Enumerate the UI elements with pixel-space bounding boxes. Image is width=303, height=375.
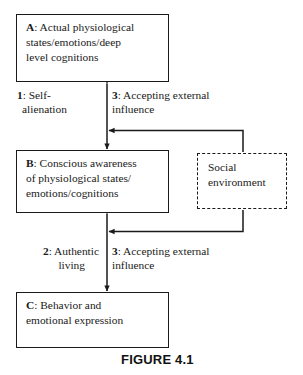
box-social-environment: Social environment	[197, 153, 287, 209]
label-3-lower-line1: : Accepting external	[118, 245, 210, 257]
figure-4-1: A: Actual physiological states/emotions/…	[0, 0, 303, 375]
box-b-line3: emotions/cognitions	[26, 187, 118, 199]
label-3-lower-line2: influence	[112, 259, 154, 271]
box-c-lead: C	[26, 299, 34, 311]
box-c-behavior: C: Behavior and emotional expression	[16, 292, 169, 348]
box-a-line1: : Actual physiological	[34, 21, 134, 33]
box-a-line2: states/emotions/deep	[26, 36, 121, 48]
label-3-upper-line1: : Accepting external	[118, 89, 210, 101]
label-2-line1: : Authentic	[49, 245, 99, 257]
label-1-line2: alienation	[17, 103, 67, 115]
box-a-actual-states: A: Actual physiological states/emotions/…	[16, 14, 169, 82]
label-3-upper-accepting-external-influence: 3: Accepting external influence	[112, 88, 209, 116]
box-social-line2: environment	[208, 176, 266, 188]
box-c-line2: emotional expression	[26, 314, 123, 326]
label-1-self-alienation: 1: Self- alienation	[17, 88, 67, 116]
box-a-line3: level cognitions	[26, 51, 98, 63]
box-b-conscious-awareness: B: Conscious awareness of physiological …	[16, 150, 169, 213]
label-3-lower-accepting-external-influence: 3: Accepting external influence	[112, 244, 209, 272]
arrow-social-to-upper	[109, 131, 243, 153]
label-3-upper-line2: influence	[112, 103, 154, 115]
box-social-line1: Social	[208, 161, 236, 173]
box-a-lead: A	[26, 21, 34, 33]
box-b-line1: : Conscious awareness	[34, 157, 137, 169]
label-1-line1: : Self-	[23, 89, 51, 101]
box-b-line2: of physiological states/	[26, 172, 131, 184]
label-2-authentic-living: 2: Authentic living	[17, 244, 99, 272]
arrow-social-to-lower	[109, 210, 243, 232]
figure-caption: FIGURE 4.1	[121, 352, 241, 367]
label-2-line2: living	[58, 259, 99, 271]
box-b-lead: B	[26, 157, 34, 169]
box-c-line1: : Behavior and	[34, 299, 101, 311]
